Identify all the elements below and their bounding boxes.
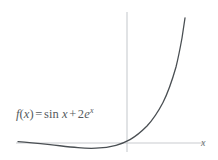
function-graph-figure: f(x)=sin x+2ex x	[0, 0, 218, 160]
formula-sin-operator: sin	[44, 107, 59, 121]
formula-sin-argument: x	[62, 107, 68, 121]
formula-exponent: x	[90, 106, 94, 115]
formula-equals-sign: =	[34, 107, 44, 121]
function-curve	[18, 18, 185, 148]
x-axis-label: x	[201, 138, 205, 148]
function-formula-label: f(x)=sin x+2ex	[16, 108, 94, 121]
plot-canvas	[0, 0, 218, 160]
formula-plus-sign: +	[68, 107, 78, 121]
